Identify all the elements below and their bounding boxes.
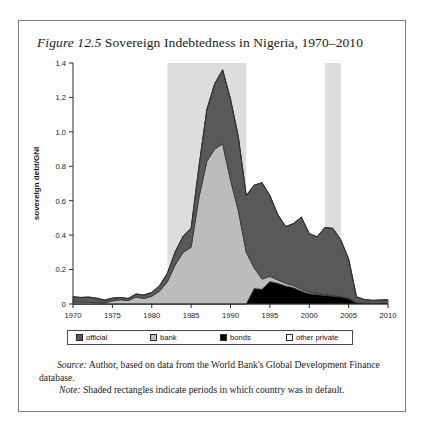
legend-label: bank xyxy=(160,333,176,342)
stacked-area-chart: 00.20.40.60.81.01.21.4197019751980198519… xyxy=(19,21,407,413)
x-tick-label: 2000 xyxy=(301,311,318,320)
legend-swatch-icon xyxy=(150,334,157,341)
y-tick-label: 0.8 xyxy=(55,162,66,171)
legend-label: official xyxy=(86,333,107,342)
chart-plot-area: 00.20.40.60.81.01.21.4197019751980198519… xyxy=(19,21,407,413)
x-tick-label: 1985 xyxy=(183,311,200,320)
note-text: Shaded rectangles indicate periods in wh… xyxy=(83,384,344,395)
y-tick-label: 1.0 xyxy=(55,128,66,137)
y-tick-label: 1.4 xyxy=(55,59,66,68)
legend-item-other-private: other private xyxy=(286,331,338,344)
x-tick-label: 1980 xyxy=(143,311,160,320)
source-line: Source: Author, based on data from the W… xyxy=(39,359,389,384)
y-axis-label: sovereign debt/GNI xyxy=(32,147,41,220)
x-tick-label: 1970 xyxy=(65,311,82,320)
x-tick-label: 1990 xyxy=(222,311,239,320)
figure-notes: Source: Author, based on data from the W… xyxy=(39,359,389,397)
x-tick-label: 2005 xyxy=(340,311,357,320)
legend-label: other private xyxy=(296,333,338,342)
legend-swatch-icon xyxy=(286,334,293,341)
x-tick-label: 1975 xyxy=(104,311,121,320)
figure-box: Figure 12.5 Sovereign Indebtedness in Ni… xyxy=(18,20,406,412)
legend-item-bonds: bonds xyxy=(220,331,251,344)
running-header xyxy=(0,0,424,10)
y-tick-label: 0 xyxy=(62,300,66,309)
note-line: Note: Shaded rectangles indicate periods… xyxy=(39,384,389,397)
legend-swatch-icon xyxy=(220,334,227,341)
y-tick-label: 1.2 xyxy=(55,93,66,102)
legend-swatch-icon xyxy=(76,334,83,341)
y-tick-label: 0.6 xyxy=(55,197,66,206)
x-tick-label: 2010 xyxy=(380,311,397,320)
source-text: Author, based on data from the World Ban… xyxy=(39,359,380,383)
legend-label: bonds xyxy=(230,333,251,342)
legend-item-bank: bank xyxy=(150,331,176,344)
source-label: Source: xyxy=(57,359,87,370)
x-tick-label: 1995 xyxy=(261,311,278,320)
y-tick-label: 0.2 xyxy=(55,265,66,274)
y-tick-label: 0.4 xyxy=(55,231,66,240)
legend-item-official: official xyxy=(76,331,107,344)
chart-legend: officialbankbondsother private xyxy=(67,330,353,345)
note-label: Note: xyxy=(59,384,81,395)
